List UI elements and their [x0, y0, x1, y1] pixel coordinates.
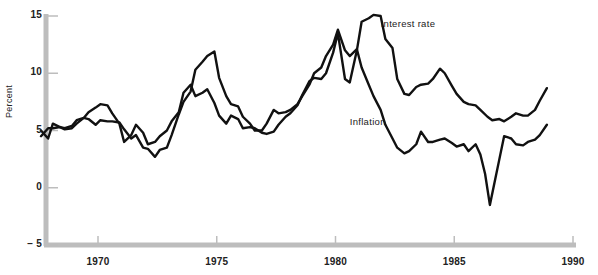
y-tick-label: 10: [30, 66, 42, 77]
series-label-inflation: Inflation: [350, 116, 386, 127]
chart-container: Percent − 5051015 19701975198019851990 I…: [0, 0, 598, 275]
x-tick-label: 1975: [187, 256, 247, 267]
x-tick-label: 1985: [424, 256, 484, 267]
y-axis-title: Percent: [4, 85, 14, 118]
series-label-interest-rate: Interest rate: [381, 18, 436, 29]
y-tick-label: 0: [36, 181, 42, 192]
x-tick-label: 1970: [68, 256, 128, 267]
y-tick-label: − 5: [27, 238, 42, 249]
series-line-interest-rate: [41, 15, 547, 144]
x-tick-label: 1980: [306, 256, 366, 267]
series-line-inflation: [41, 30, 547, 205]
x-axis-ticks: [98, 236, 573, 243]
y-tick-label: 5: [36, 124, 42, 135]
data-series-group: [41, 15, 547, 205]
line-chart-plot: [0, 0, 598, 275]
x-tick-label: 1990: [543, 256, 598, 267]
y-tick-label: 15: [30, 9, 42, 20]
